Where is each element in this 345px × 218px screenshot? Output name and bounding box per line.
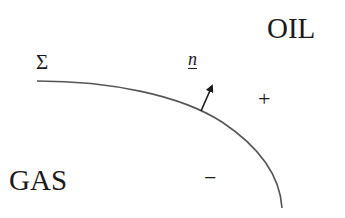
normal-vector-label: n [188, 50, 197, 68]
normal-arrow [201, 86, 212, 111]
interface-sigma-label: Σ [36, 52, 48, 73]
plus-sign-label: + [258, 88, 270, 110]
interface-curve [37, 81, 282, 208]
diagram-canvas: OIL GAS Σ n + − [0, 0, 345, 218]
oil-label: OIL [267, 14, 315, 43]
gas-label: GAS [9, 166, 67, 195]
minus-sign-label: − [204, 167, 216, 189]
